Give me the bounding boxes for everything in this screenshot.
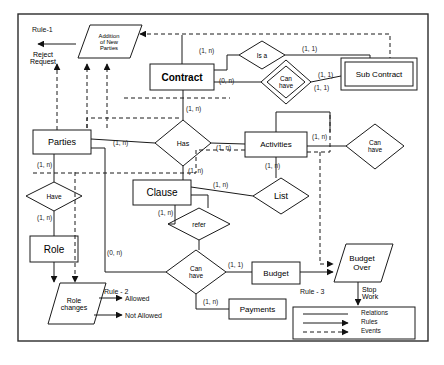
entity-activities-box [245, 132, 307, 157]
entity-parties-box [33, 130, 91, 154]
entity-payments-box [229, 299, 286, 319]
cardinality-subcontract-right: (1, 1) [318, 72, 333, 79]
entity-clause-box [133, 180, 191, 205]
cardinality-canhave-payments: (1, n) [203, 299, 218, 306]
er-diagram-canvas: Addition of New Parties Role changes Bud… [0, 0, 444, 365]
cardinality-canhave-subcontract: (1, 1) [314, 85, 329, 92]
cardinality-clause-refer: (1, n) [158, 210, 173, 217]
cardinality-contract-has: (1, n) [186, 106, 201, 113]
cardinality-has-clause: (1, n) [188, 168, 203, 175]
cardinality-clause-list: (1, n) [213, 182, 228, 189]
rule1-name: Rule-1 [32, 26, 53, 33]
cardinality-parties-have: (1, n) [37, 162, 52, 169]
rule3-name: Rule - 3 [300, 288, 325, 295]
entity-role-box [30, 236, 78, 262]
cardinality-parties-long-stem: (0, n) [107, 250, 122, 257]
cardinality-contract-isa: (1, n) [199, 48, 214, 55]
cardinality-contract-canhave: (0, n) [219, 78, 234, 85]
legend-label-rules: Rules [361, 319, 378, 326]
legend-label-relations: Relations [361, 310, 388, 317]
cardinality-isa-subcontract: (1, 1) [302, 46, 317, 53]
entity-subcontract-inner [345, 62, 413, 86]
cardinality-parties-has: (1, n) [113, 140, 128, 147]
cardinality-activities-list: (1, n) [265, 163, 280, 170]
entity-budget-box [252, 262, 300, 284]
cardinality-has-activities: (1, n) [216, 145, 231, 152]
rule2-outcome-allowed: Allowed [125, 295, 150, 302]
cardinality-canhave-budget: (1, 1) [228, 262, 243, 269]
legend-label-events: Events [361, 328, 381, 335]
cardinality-have-role: (1, n) [37, 215, 52, 222]
cardinality-activities-canhave: (1, n) [312, 134, 327, 141]
entity-contract-box [150, 64, 214, 90]
rule2-outcome-not-allowed: Not Allowed [125, 312, 162, 319]
